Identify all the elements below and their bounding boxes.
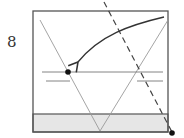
curved-arrow [78,17,164,62]
bottom-band [33,114,168,132]
reference-dot-corner [169,130,175,136]
reference-dot-left [65,69,71,75]
origami-diagram [0,0,184,138]
